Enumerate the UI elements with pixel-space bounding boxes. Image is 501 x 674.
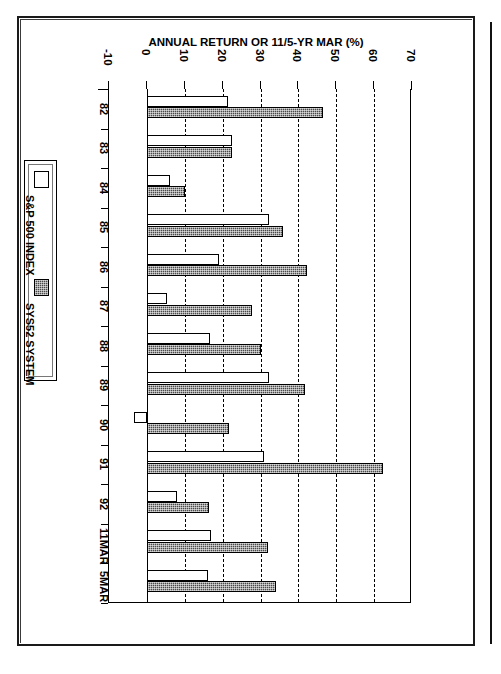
category-label-92: 92: [98, 498, 110, 510]
bar-s-p-500-index-88: [147, 333, 210, 344]
plot-area: [108, 89, 411, 603]
category-label-82: 82: [98, 103, 110, 115]
gridline: [336, 89, 337, 602]
scanned-chart-page: ANNUAL RETURNS (82-92) & 11/5-YR MAR INV…: [0, 0, 501, 674]
category-tick-mark: [101, 129, 108, 130]
category-tick-mark: [101, 445, 108, 446]
category-label-11mar: 11MAR: [98, 528, 110, 565]
bar-sys52-system-82: [147, 107, 323, 118]
bar-s-p-500-index-85: [147, 214, 269, 225]
gridline: [261, 89, 262, 602]
legend-label-sys52-system: SYS52 SYSTEM: [24, 303, 36, 386]
page-edge-line: [490, 22, 492, 644]
bar-sys52-system-87: [147, 305, 252, 316]
category-tick-mark: [101, 247, 108, 248]
bar-s-p-500-index-83: [147, 135, 233, 146]
bar-sys52-system-88: [147, 344, 261, 355]
category-label-5mar: 5MAR: [98, 571, 110, 602]
category-tick-mark: [101, 366, 108, 367]
bar-sys52-system-92: [147, 502, 209, 513]
value-axis-title: ANNUAL RETURN OR 11/5-YR MAR (%): [96, 36, 416, 48]
category-label-88: 88: [98, 340, 110, 352]
category-label-83: 83: [98, 142, 110, 154]
bar-sys52-system-90: [147, 423, 229, 434]
gridline: [298, 89, 299, 602]
bar-s-p-500-index-82: [147, 96, 228, 107]
bar-sys52-system-91: [147, 463, 383, 474]
bar-s-p-500-index-5mar: [147, 570, 208, 581]
bar-s-p-500-index-90: [134, 412, 147, 423]
bar-s-p-500-index-89: [147, 372, 269, 383]
category-label-89: 89: [98, 379, 110, 391]
bar-s-p-500-index-92: [147, 491, 177, 502]
bar-sys52-system-86: [147, 265, 307, 276]
category-label-91: 91: [98, 458, 110, 470]
legend-label-s-p-500-index: S&P 500 INDEX: [24, 195, 36, 276]
bar-s-p-500-index-91: [147, 451, 264, 462]
bar-sys52-system-89: [147, 384, 305, 395]
category-tick-mark: [101, 287, 108, 288]
category-tick-mark: [101, 524, 108, 525]
category-tick-mark: [101, 208, 108, 209]
category-tick-mark: [101, 405, 108, 406]
category-tick-mark: [101, 168, 108, 169]
category-tick-mark: [101, 603, 108, 604]
chart-legend: S&P 500 INDEXSYS52 SYSTEM: [24, 160, 57, 381]
bar-s-p-500-index-87: [147, 293, 167, 304]
bar-s-p-500-index-11mar: [147, 530, 211, 541]
category-label-90: 90: [98, 419, 110, 431]
filled-square-swatch: [34, 279, 49, 296]
category-tick-mark: [101, 326, 108, 327]
bar-sys52-system-5mar: [147, 581, 276, 592]
category-label-84: 84: [98, 182, 110, 194]
bar-s-p-500-index-86: [147, 254, 219, 265]
bar-sys52-system-11mar: [147, 542, 268, 553]
category-label-87: 87: [98, 300, 110, 312]
bar-s-p-500-index-84: [147, 175, 170, 186]
open-square-swatch: [34, 171, 49, 188]
bar-sys52-system-83: [147, 147, 232, 158]
category-tick-mark: [101, 484, 108, 485]
bar-sys52-system-85: [147, 226, 283, 237]
bar-sys52-system-84: [147, 186, 185, 197]
gridline: [374, 89, 375, 602]
category-label-85: 85: [98, 221, 110, 233]
category-label-86: 86: [98, 261, 110, 273]
